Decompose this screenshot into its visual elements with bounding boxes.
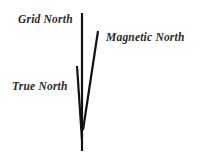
magnetic-north-line bbox=[83, 31, 98, 130]
north-arrows-diagram bbox=[0, 0, 202, 158]
